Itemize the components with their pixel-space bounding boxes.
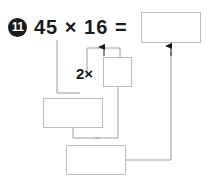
- connector-partial-left-to-lower: [73, 128, 100, 138]
- problem-number-badge: 11: [8, 18, 27, 37]
- equation-operator-icon: ×: [65, 16, 78, 38]
- answer-box-partial-lower[interactable]: [66, 145, 126, 175]
- equation-right-operand: 16: [84, 16, 108, 38]
- answer-box-double[interactable]: [103, 57, 132, 87]
- strategy-operator-icon: ×: [84, 65, 93, 82]
- answer-box-result[interactable]: [141, 12, 201, 43]
- equation-equals-sign: =: [115, 16, 128, 38]
- equation-text: 45 × 16 =: [34, 16, 128, 39]
- equation-left-operand: 45: [34, 16, 58, 38]
- strategy-multiplier-label: 2×: [76, 65, 93, 82]
- worksheet-problem-canvas: 11 45 × 16 = 2×: [0, 0, 211, 187]
- answer-box-partial-left[interactable]: [43, 98, 103, 128]
- connector-lower-to-result-path: [126, 52, 171, 160]
